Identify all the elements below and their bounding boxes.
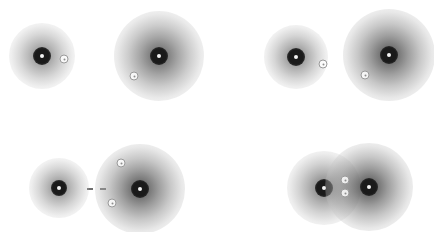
figure-canvas <box>0 0 434 232</box>
panel-bottom-right <box>0 0 434 232</box>
source-d2 <box>325 143 413 231</box>
source-d1 <box>287 151 361 225</box>
marker-d2[interactable] <box>341 189 350 198</box>
source-d1-halo <box>287 151 361 225</box>
marker-d1[interactable] <box>341 176 350 185</box>
source-d2-nucleus <box>367 185 371 189</box>
source-d1-core <box>315 179 333 197</box>
source-d2-core <box>360 178 378 196</box>
source-d2-halo <box>325 143 413 231</box>
source-d1-nucleus <box>322 186 326 190</box>
